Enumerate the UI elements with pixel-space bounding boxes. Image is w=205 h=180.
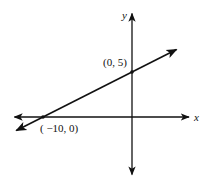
point-label-0: (0, 5) [103, 56, 127, 69]
y-axis-label: y [121, 9, 127, 21]
coordinate-plane-chart: x y (0, 5)( −10, 0) [0, 0, 205, 180]
series-line-0 [16, 50, 176, 131]
series-layer [16, 50, 176, 131]
data-point-1 [41, 115, 45, 119]
x-axis-label: x [193, 111, 199, 123]
point-label-1: ( −10, 0) [40, 122, 79, 135]
data-point-0 [130, 70, 134, 74]
